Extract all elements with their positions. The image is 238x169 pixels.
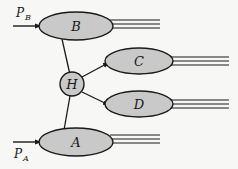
blob-C-label: C (134, 54, 144, 69)
momentum-PA-subscript: A (22, 154, 29, 163)
blob-A[interactable]: A (39, 128, 113, 156)
momentum-PA-base: P (13, 147, 23, 161)
jet-lines-A (110, 135, 160, 143)
blob-H-label: H (65, 77, 78, 92)
jet-lines-B (110, 20, 160, 28)
blob-D[interactable]: D (105, 91, 173, 117)
blob-H-hard-vertex[interactable]: H (60, 72, 84, 96)
momentum-label-PA: P A (13, 147, 29, 163)
line-A-to-H (64, 96, 70, 130)
momentum-PB-subscript: B (24, 13, 31, 22)
blob-B-label: B (70, 19, 81, 34)
feynman-diagram: B A C D H P B P A (0, 0, 238, 169)
blob-D-label: D (133, 97, 145, 112)
jet-lines-D (170, 100, 229, 108)
momentum-label-PB: P B (15, 6, 31, 22)
blob-B[interactable]: B (39, 12, 113, 40)
jet-lines-C (170, 57, 229, 65)
blob-A-label: A (70, 135, 80, 150)
line-B-to-H (62, 39, 70, 73)
figure-canvas: B A C D H P B P A (0, 0, 238, 169)
blob-C[interactable]: C (105, 48, 173, 74)
momentum-PB-base: P (15, 6, 25, 20)
arrow-H-to-C (82, 63, 109, 78)
